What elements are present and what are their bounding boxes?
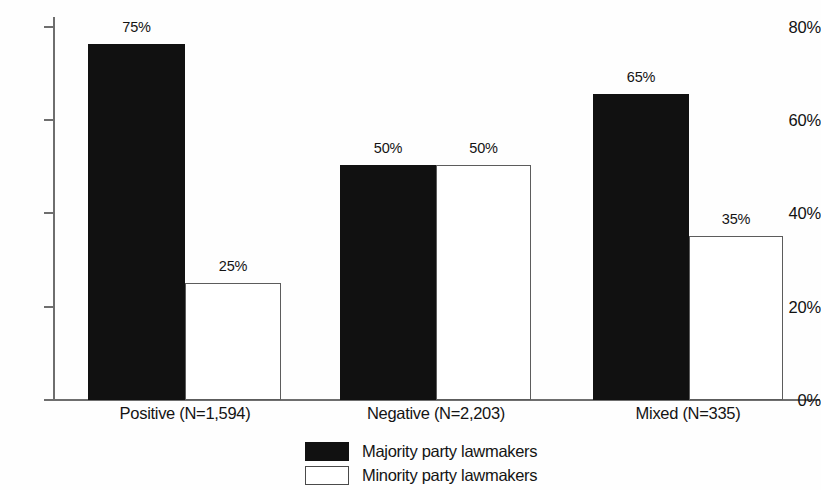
bar-negative-minority [436, 165, 531, 400]
y-axis-line [53, 17, 55, 401]
y-axis-label-60: 60% [777, 111, 821, 130]
bar-positive-majority [88, 44, 185, 400]
y-axis-tick-80 [44, 26, 54, 28]
legend-item-majority: Majority party lawmakers [305, 439, 537, 463]
legend-item-minority: Minority party lawmakers [305, 463, 537, 487]
x-axis-label-negative: Negative (N=2,203) [336, 404, 536, 423]
y-axis-tick-60 [44, 119, 54, 121]
bar-chart: 80% 60% 40% 20% 0% 75% 25% 50% 50% 65% 3… [0, 0, 821, 490]
y-axis-label-40: 40% [777, 204, 821, 223]
bar-mixed-majority [593, 94, 689, 400]
y-axis-tick-0 [44, 399, 54, 401]
legend-swatch-majority-icon [305, 442, 349, 461]
chart-legend: Majority party lawmakers Minority party … [305, 439, 537, 487]
bar-value-positive-majority: 75% [88, 19, 185, 35]
legend-swatch-minority-icon [305, 466, 349, 485]
plot-area: 80% 60% 40% 20% 0% 75% 25% 50% 50% 65% 3… [0, 0, 821, 412]
bar-value-negative-majority: 50% [340, 140, 436, 156]
bar-value-mixed-minority: 35% [689, 211, 783, 227]
legend-label-majority: Majority party lawmakers [362, 442, 537, 461]
y-axis-label-80: 80% [777, 18, 821, 37]
y-axis-label-20: 20% [777, 298, 821, 317]
bar-negative-majority [340, 165, 436, 400]
y-axis-tick-20 [44, 306, 54, 308]
bar-value-mixed-majority: 65% [593, 69, 689, 85]
x-axis-label-positive: Positive (N=1,594) [85, 404, 285, 423]
bar-mixed-minority [689, 236, 783, 400]
bar-value-negative-minority: 50% [436, 140, 531, 156]
x-axis-label-mixed: Mixed (N=335) [588, 404, 788, 423]
legend-label-minority: Minority party lawmakers [362, 466, 537, 485]
bar-positive-minority [185, 283, 281, 400]
bar-value-positive-minority: 25% [185, 258, 281, 274]
y-axis-tick-40 [44, 212, 54, 214]
